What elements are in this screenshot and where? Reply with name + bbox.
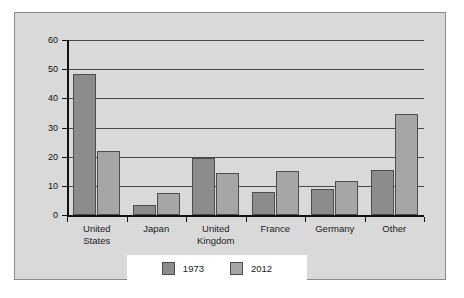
legend-label: 1973 xyxy=(183,263,204,274)
bar-group xyxy=(252,40,299,215)
x-axis-category-label: Germany xyxy=(315,223,354,235)
x-axis-category-label: France xyxy=(260,223,290,235)
x-axis-tick xyxy=(127,217,128,222)
x-axis-category-label: United States xyxy=(83,223,110,247)
x-axis-tick xyxy=(186,217,187,222)
bar xyxy=(276,171,299,215)
bar xyxy=(216,173,239,215)
bar xyxy=(252,192,275,215)
legend-item: 2012 xyxy=(230,262,272,275)
y-axis-tick-label: 30 xyxy=(48,123,58,133)
y-axis-tick-label: 0 xyxy=(53,210,58,220)
bar xyxy=(311,189,334,215)
bar xyxy=(335,181,358,215)
legend-item: 1973 xyxy=(162,262,204,275)
x-axis-tick xyxy=(424,217,425,222)
bar-group xyxy=(133,40,180,215)
x-axis-category-label: Japan xyxy=(143,223,169,235)
bar-group xyxy=(311,40,358,215)
bar xyxy=(192,158,215,215)
y-axis-tick-label: 60 xyxy=(48,35,58,45)
y-axis-tick-label: 10 xyxy=(48,181,58,191)
bar xyxy=(371,170,394,215)
bar xyxy=(97,151,120,215)
legend-swatch xyxy=(230,262,243,275)
bar xyxy=(395,114,418,215)
legend-swatch xyxy=(162,262,175,275)
plot-area: 0102030405060 xyxy=(67,40,424,217)
bar-group xyxy=(192,40,239,215)
x-axis-tick xyxy=(67,217,68,222)
x-axis-tick xyxy=(305,217,306,222)
y-axis-line xyxy=(67,40,69,217)
chart-legend: 19732012 xyxy=(127,255,307,282)
chart-figure: 0102030405060 United StatesJapanUnited K… xyxy=(14,12,446,280)
bar xyxy=(157,193,180,215)
y-axis-tick-label: 40 xyxy=(48,93,58,103)
x-axis-category-label: United Kingdom xyxy=(197,223,235,247)
x-axis-tick xyxy=(365,217,366,222)
bar-group xyxy=(371,40,418,215)
bar xyxy=(133,205,156,215)
bar-group xyxy=(73,40,120,215)
x-axis-category-label: Other xyxy=(382,223,406,235)
bar xyxy=(73,74,96,215)
x-axis-tick xyxy=(246,217,247,222)
legend-label: 2012 xyxy=(251,263,272,274)
y-axis-tick-label: 20 xyxy=(48,152,58,162)
y-axis-tick-label: 50 xyxy=(48,64,58,74)
